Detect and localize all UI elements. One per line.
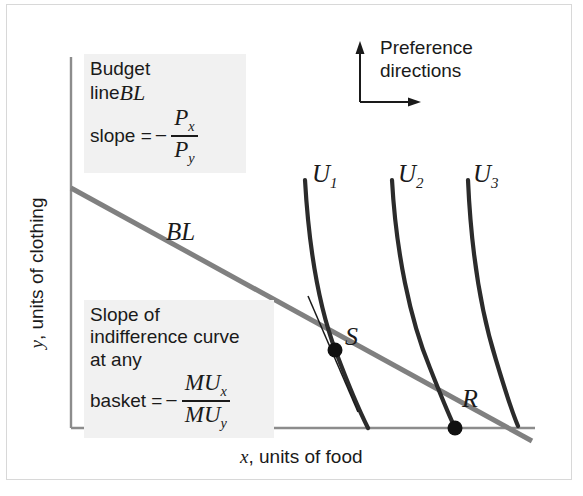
- mrs-callout-line1: Slope of: [90, 304, 268, 326]
- price-ratio-numerator-sub: x: [188, 118, 194, 134]
- x-axis-label: x, units of food: [240, 446, 363, 468]
- curve-label-u3-sub: 3: [491, 175, 499, 191]
- curve-label-u2: U2: [398, 160, 424, 192]
- mu-ratio-numerator: MUx: [182, 371, 230, 400]
- curve-label-u3-base: U: [473, 160, 491, 187]
- y-axis-label: y, units of clothing: [26, 173, 48, 373]
- point-label-s: S: [345, 322, 358, 352]
- budget-callout-line1: Budget: [90, 58, 240, 80]
- marginal-utility-ratio-fraction: MUx MUy: [182, 371, 230, 430]
- price-ratio-numerator-base: P: [174, 105, 188, 130]
- mu-ratio-denominator-base: MU: [185, 402, 221, 427]
- mrs-callout-line1-text: Slope of: [90, 304, 160, 326]
- curve-label-u1: U1: [312, 160, 338, 192]
- preference-directions-line2: directions: [380, 59, 473, 82]
- figure-canvas: U1 U2 U3 S R BL Preference directions Bu…: [0, 0, 583, 496]
- indifference-slope-callout: Slope of indifference curve at any baske…: [84, 300, 274, 438]
- preference-directions-text: Preference directions: [380, 36, 473, 82]
- mrs-callout-line3: at any: [90, 349, 268, 371]
- y-axis-label-text: , units of clothing: [26, 197, 47, 340]
- mu-ratio-denominator-sub: y: [221, 414, 227, 430]
- mrs-callout-line2-text: indifference curve: [90, 326, 240, 348]
- point-s-marker: [328, 343, 343, 358]
- price-ratio-denominator: Py: [171, 137, 197, 166]
- budget-callout-line2: line BL: [90, 80, 240, 106]
- y-axis-label-variable: y: [26, 340, 47, 348]
- point-r-marker: [448, 421, 463, 436]
- budget-callout-line3-prefix: slope =: [90, 125, 152, 147]
- point-label-r: R: [462, 384, 478, 414]
- mu-ratio-numerator-sub: x: [221, 383, 227, 399]
- budget-callout-minus-sign: −: [155, 123, 167, 149]
- mu-ratio-numerator-base: MU: [185, 370, 221, 395]
- price-ratio-fraction: Px Py: [171, 106, 197, 165]
- budget-callout-line2-math: BL: [120, 80, 146, 106]
- price-ratio-denominator-sub: y: [188, 150, 194, 166]
- mu-ratio-denominator: MUy: [182, 402, 230, 431]
- budget-callout-line2-prefix: line: [90, 82, 120, 104]
- budget-line-callout: Budget line BL slope = − Px Py: [84, 54, 246, 173]
- budget-callout-line1-text: Budget: [90, 58, 150, 80]
- mrs-callout-minus-sign: −: [165, 388, 177, 414]
- indifference-curve-u1: [305, 180, 368, 428]
- mrs-callout-line4: basket = − MUx MUy: [90, 371, 268, 430]
- price-ratio-numerator: Px: [171, 106, 197, 135]
- x-axis-label-text: , units of food: [248, 446, 362, 467]
- budget-line-label: BL: [166, 218, 195, 246]
- budget-callout-line3: slope = − Px Py: [90, 106, 240, 165]
- mrs-callout-line4-prefix: basket =: [90, 390, 162, 412]
- curve-label-u2-sub: 2: [416, 175, 424, 191]
- curve-label-u3: U3: [473, 160, 499, 192]
- price-ratio-denominator-base: P: [174, 137, 188, 162]
- mrs-callout-line3-text: at any: [90, 349, 142, 371]
- curve-label-u1-base: U: [312, 160, 330, 187]
- mrs-callout-line2: indifference curve: [90, 326, 268, 348]
- curve-label-u2-base: U: [398, 160, 416, 187]
- preference-directions-line1: Preference: [380, 36, 473, 59]
- curve-label-u1-sub: 1: [330, 175, 338, 191]
